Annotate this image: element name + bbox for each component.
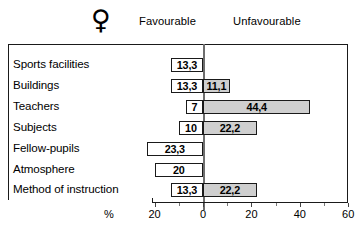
- x-axis: 200204060 %: [0, 198, 364, 239]
- table-row: Fellow-pupils23,3: [0, 139, 364, 160]
- axis-tick: [155, 203, 156, 207]
- bar-unfavourable: 22,2: [203, 183, 257, 197]
- axis-tick: [203, 203, 204, 207]
- bar-favourable: 13,3: [171, 58, 203, 72]
- bar-unfavourable: 44,4: [203, 100, 310, 114]
- legend-label-favourable: Favourable: [139, 15, 196, 27]
- table-row: Buildings13,311,1: [0, 76, 364, 97]
- category-label: Atmosphere: [13, 162, 75, 175]
- category-label: Sports facilities: [13, 57, 89, 70]
- category-label: Teachers: [13, 99, 59, 112]
- table-row: Teachers744,4: [0, 97, 364, 118]
- category-label: Buildings: [13, 78, 59, 91]
- female-venus-symbol-icon: ♀: [88, 5, 114, 37]
- chart-header: ♀ Favourable Unfavourable: [0, 0, 364, 40]
- axis-unit-label: %: [104, 208, 114, 220]
- category-label: Method of instruction: [13, 182, 119, 195]
- axis-tick: [348, 203, 349, 207]
- axis-tick: [251, 203, 252, 207]
- axis-tick: [300, 203, 301, 207]
- axis-cap-left: [152, 198, 153, 203]
- bar-favourable: 13,3: [171, 79, 203, 93]
- axis-tick-label: 20: [239, 208, 263, 220]
- table-row: Sports facilities13,3: [0, 55, 364, 76]
- axis-tick-label: 40: [288, 208, 312, 220]
- bar-favourable: 10: [179, 121, 203, 135]
- table-row: Atmosphere20: [0, 160, 364, 181]
- bar-favourable: 7: [186, 100, 203, 114]
- table-row: Subjects1022,2: [0, 118, 364, 139]
- bar-favourable: 23,3: [147, 142, 203, 156]
- axis-tick-label: 60: [336, 208, 360, 220]
- diverging-bar-chart: ♀ Favourable Unfavourable Sports facilit…: [0, 0, 364, 239]
- axis-line: [152, 202, 348, 203]
- bar-unfavourable: 11,1: [203, 79, 230, 93]
- axis-tick-label: 20: [143, 208, 167, 220]
- bar-favourable: 13,3: [171, 183, 203, 197]
- bar-favourable: 20: [155, 163, 203, 177]
- axis-tick-minor: [227, 203, 228, 206]
- axis-tick-label: 0: [191, 208, 215, 220]
- bar-unfavourable: 22,2: [203, 121, 257, 135]
- axis-tick-minor: [276, 203, 277, 206]
- axis-tick-minor: [179, 203, 180, 206]
- category-label: Subjects: [13, 120, 57, 133]
- legend-label-unfavourable: Unfavourable: [233, 15, 301, 27]
- category-label: Fellow-pupils: [13, 141, 79, 154]
- axis-tick-minor: [324, 203, 325, 206]
